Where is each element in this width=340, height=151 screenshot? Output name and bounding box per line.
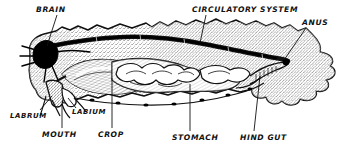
label-labium: LABIUM [72,108,106,116]
anatomy-figure: BRAINCIRCULATORY SYSTEMANUSLABRUMLABIUMM… [0,0,340,151]
posterior-caeca [200,66,250,84]
anus-opening [283,59,290,66]
label-circulatory-system: CIRCULATORY SYSTEM [192,5,298,14]
label-brain: BRAIN [36,5,66,14]
label-stomach: STOMACH [172,133,218,142]
label-labrum: LABRUM [10,112,47,120]
anatomy-illustration: BRAINCIRCULATORY SYSTEMANUSLABRUMLABIUMM… [0,0,340,151]
label-hind-gut: HIND GUT [240,133,287,142]
label-anus: ANUS [301,18,328,27]
label-mouth: MOUTH [42,130,77,139]
label-crop: CROP [98,130,124,139]
